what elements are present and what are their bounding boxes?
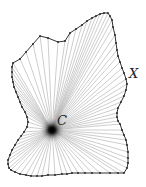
- rays-from-center: [8, 13, 128, 176]
- boundary-vertex: [30, 175, 32, 177]
- boundary-vertex: [86, 20, 88, 22]
- boundary-vertex: [117, 172, 119, 174]
- boundary-vertex: [8, 167, 10, 169]
- boundary-vertex: [66, 173, 68, 175]
- boundary-vertex: [77, 172, 79, 174]
- boundary-vertex: [120, 101, 122, 103]
- boundary-vertex: [127, 151, 129, 153]
- boundary-vertex: [123, 72, 125, 74]
- boundary-vertex: [84, 172, 86, 174]
- boundary-vertex: [36, 175, 38, 177]
- boundary-vertex: [71, 172, 73, 174]
- boundary-vertex: [12, 62, 14, 64]
- boundary-vertex: [116, 116, 118, 118]
- boundary-vertex: [11, 71, 13, 73]
- boundary-vertex: [11, 149, 13, 151]
- boundary-vertex: [107, 12, 109, 14]
- boundary-vertex: [64, 40, 66, 42]
- boundary-vertex: [117, 107, 119, 109]
- boundary-vertex: [115, 42, 117, 44]
- boundary-vertex: [12, 81, 14, 83]
- center-point-c: [50, 128, 55, 133]
- boundary-vertex: [32, 43, 34, 45]
- center-label-c: C: [57, 113, 67, 128]
- boundary-vertex: [26, 126, 28, 128]
- boundary-vertex: [117, 120, 119, 122]
- boundary-vertex: [123, 134, 125, 136]
- boundary-vertex: [125, 139, 127, 141]
- boundary-vertex: [109, 15, 111, 17]
- boundary-vertex: [15, 91, 17, 93]
- boundary-vertex: [95, 15, 97, 17]
- boundary-vertex: [111, 19, 113, 21]
- boundary-vertex: [25, 174, 27, 176]
- boundary-vertex: [41, 175, 43, 177]
- boundary-vertex: [119, 61, 121, 63]
- boundary-vertex: [109, 172, 111, 174]
- boundary-vertex: [26, 116, 28, 118]
- boundary-vertex: [19, 101, 21, 103]
- boundary-vertex: [117, 55, 119, 57]
- boundary-vertex: [10, 169, 12, 171]
- boundary-vertex: [57, 41, 59, 43]
- boundary-vertex: [61, 173, 63, 175]
- boundary-vertex: [47, 174, 49, 176]
- boundary-vertex: [39, 35, 41, 37]
- boundary-vertex: [91, 17, 93, 19]
- boundary-vertex: [125, 78, 127, 80]
- boundary-vertex: [7, 159, 9, 161]
- boundary-vertex: [54, 174, 56, 176]
- boundary-vertex: [9, 154, 11, 156]
- boundary-vertex: [116, 49, 118, 51]
- boundary-vertex: [23, 131, 25, 133]
- boundary-vertex: [123, 172, 125, 174]
- boundary-vertex: [114, 34, 116, 36]
- boundary-vertex: [21, 106, 23, 108]
- boundary-vertex: [14, 171, 16, 173]
- boundary-vertex: [121, 67, 123, 69]
- boundary-vertex: [99, 13, 101, 15]
- boundary-vertex: [19, 58, 21, 60]
- boundary-vertex: [13, 86, 15, 88]
- boundary-vertex: [127, 162, 129, 164]
- boundary-vertex: [126, 144, 128, 146]
- boundary-vertex: [14, 144, 16, 146]
- boundary-vertex: [27, 121, 29, 123]
- boundary-vertex: [7, 163, 9, 165]
- boundary-vertex: [24, 111, 26, 113]
- boundary-label-x: X: [128, 66, 139, 81]
- boundary-vertex: [20, 135, 22, 137]
- boundary-vertex: [47, 37, 49, 39]
- boundary-vertex: [123, 95, 125, 97]
- boundary-vertex: [121, 129, 123, 131]
- boundary-vertex: [119, 123, 121, 125]
- boundary-vertex: [11, 76, 13, 78]
- boundary-vertex: [126, 167, 128, 169]
- star-shaped-region-diagram: C X: [0, 0, 146, 187]
- boundary-vertex: [127, 157, 129, 159]
- boundary-vertex: [125, 89, 127, 91]
- boundary-vertex: [99, 172, 101, 174]
- boundary-vertex: [103, 12, 105, 14]
- boundary-vertex: [75, 28, 77, 30]
- boundary-vertex: [69, 32, 71, 34]
- boundary-vertex: [25, 51, 27, 53]
- boundary-vertex: [116, 112, 118, 114]
- boundary-vertex: [17, 139, 19, 141]
- boundary-vertex: [19, 173, 21, 175]
- boundary-vertex: [126, 83, 128, 85]
- boundary-vertex: [81, 24, 83, 26]
- boundary-vertex: [11, 66, 13, 68]
- boundary-vertex: [91, 172, 93, 174]
- boundary-vertex: [112, 26, 114, 28]
- boundary-vertex: [17, 96, 19, 98]
